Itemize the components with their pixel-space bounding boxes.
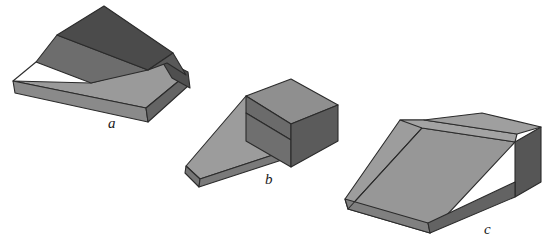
block-figures-svg <box>0 0 559 251</box>
figure-c <box>345 113 541 233</box>
figure-b <box>185 79 338 187</box>
figure-label-c: c <box>484 222 491 237</box>
figure-canvas: a b c <box>0 0 559 251</box>
figure-a <box>13 6 190 122</box>
figure-label-a: a <box>108 116 116 131</box>
figure-label-b: b <box>265 172 273 187</box>
figure-c-right-dark <box>515 127 541 197</box>
figure-a-left-tip-edge <box>13 62 36 81</box>
